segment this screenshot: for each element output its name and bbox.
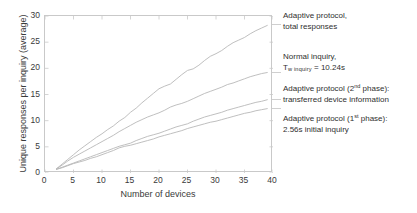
legend-item-normal-inquiry: Normal inquiry, Tw inquiry = 10.24s [283,52,345,73]
x-tick-label: 25 [182,176,191,185]
legend-line-2: total responses [283,22,347,33]
x-tick-label: 5 [70,176,75,185]
legend-annotations: Adaptive protocol, total responses Norma… [283,0,417,213]
series-line-adaptive-total-responses [56,25,267,168]
legend-value: = 10.24s [312,63,345,72]
legend-line-1: Normal inquiry, [283,52,345,63]
x-tick-label: 10 [96,176,105,185]
plot-curves [45,16,273,173]
legend-text-suffix: phase): [359,114,388,123]
legend-text-prefix: Adaptive protocol (2 [283,84,354,93]
x-axis-title: Number of devices [44,190,272,199]
legend-connector-adaptive-1st-phase [272,108,281,109]
legend-item-adaptive-total: Adaptive protocol, total responses [283,11,347,32]
legend-superscript: st [354,113,358,119]
legend-text-prefix: Adaptive protocol (1 [283,114,354,123]
x-tick-label: 35 [239,176,248,185]
legend-line-2: Tw inquiry = 10.24s [283,63,345,74]
x-tick-label: 15 [125,176,134,185]
legend-connector-adaptive-2nd-phase [272,99,281,100]
x-tick-label: 40 [267,176,276,185]
legend-line-2: 2.56s initial inquiry [283,125,387,136]
legend-subscript: w inquiry [288,66,312,72]
legend-connector-adaptive-total-responses [272,24,281,25]
legend-item-adaptive-2nd-phase: Adaptive protocol (2nd phase): transferr… [283,84,389,105]
x-tick-label: 0 [42,176,47,185]
legend-connector-normal-inquiry [272,72,281,73]
series-line-adaptive-1st-phase [56,109,267,170]
legend-text-suffix: phase): [360,84,389,93]
chart-figure: 051015202530 Unique responses per inquir… [0,0,417,213]
legend-line-1: Adaptive protocol (2nd phase): [283,84,389,95]
legend-line-1: Adaptive protocol, [283,11,347,22]
plot-area [44,15,272,172]
y-axis-title: Unique responses per inquiry (average) [19,9,28,179]
x-tick-label: 20 [153,176,162,185]
legend-line-1: Adaptive protocol (1st phase): [283,114,387,125]
x-tick-label: 30 [210,176,219,185]
legend-item-adaptive-1st-phase: Adaptive protocol (1st phase): 2.56s ini… [283,114,387,135]
legend-superscript: nd [354,83,360,89]
legend-line-2: transferred device information [283,95,389,106]
